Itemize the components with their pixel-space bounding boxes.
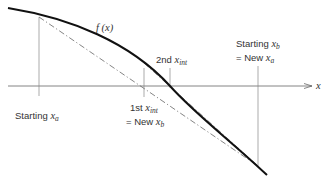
starting-xb-prefix: Starting (236, 38, 271, 49)
first-new-xb-sub: b (161, 120, 165, 129)
new-xa-prefix: = New (236, 52, 266, 63)
function-label-text: f (x) (96, 22, 113, 33)
false-position-diagram (0, 0, 324, 183)
new-xa-label: = New xa (236, 52, 274, 66)
function-curve (8, 8, 267, 175)
second-xint-prefix: 2nd (156, 54, 175, 65)
axis-label-text: x (316, 80, 321, 91)
starting-xb-sub: b (276, 42, 280, 51)
starting-xa-sub: a (55, 114, 59, 123)
axis-label: x (316, 80, 321, 91)
function-label: f (x) (96, 22, 113, 33)
first-xint-sub: int (150, 106, 158, 115)
new-xa-sub: a (271, 56, 275, 65)
second-xint-sub: int (179, 58, 187, 67)
first-xint-label: 1st xint (130, 102, 158, 116)
starting-xb-label: Starting xb (236, 38, 280, 52)
first-chord (39, 17, 258, 166)
second-xint-label: 2nd xint (156, 54, 187, 68)
first-xint-prefix: 1st (130, 102, 145, 113)
first-new-xb-label: = New xb (126, 116, 164, 130)
starting-xa-label: Starting xa (15, 110, 59, 124)
first-new-xb-prefix: = New (126, 116, 156, 127)
starting-xa-prefix: Starting (15, 110, 50, 121)
